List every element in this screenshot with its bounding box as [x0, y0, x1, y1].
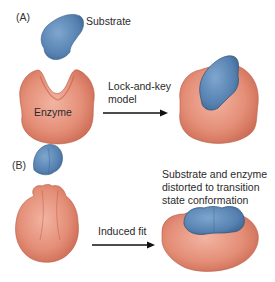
substrate-label: Substrate — [86, 15, 131, 28]
panel-b-label: (B) — [12, 159, 26, 171]
enzyme-label: Enzyme — [34, 106, 72, 119]
arrow-induced-fit-icon — [92, 242, 155, 249]
enzyme-substrate-complex-a-icon — [180, 56, 259, 144]
diagram-graphics — [0, 0, 275, 282]
transition-state-label-line1: Substrate and enzyme — [162, 168, 267, 181]
transition-state-label-line3: state conformation — [162, 194, 248, 207]
enzyme-b-icon — [16, 185, 79, 263]
enzyme-substrate-complex-b-icon — [162, 206, 258, 271]
transition-state-label-line2: distorted to transition — [162, 181, 259, 194]
arrow-lock-and-key-icon — [103, 110, 168, 117]
substrate-b-icon — [33, 144, 62, 174]
lock-and-key-label: Lock-and-key — [108, 80, 171, 93]
substrate-a-icon — [41, 14, 83, 59]
lock-and-key-model-label: model — [108, 93, 137, 106]
panel-a-label: (A) — [16, 11, 30, 23]
induced-fit-label: Induced fit — [98, 225, 146, 238]
